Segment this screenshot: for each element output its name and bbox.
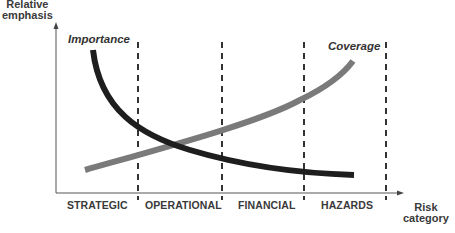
importance-label: Importance: [68, 33, 130, 45]
category-financial: FINANCIAL: [238, 199, 295, 211]
category-strategic: STRATEGIC: [67, 199, 128, 211]
x-axis: [56, 191, 404, 196]
y-axis: [54, 22, 59, 193]
category-operational: OPERATIONAL: [145, 199, 222, 211]
y-axis-label-line2: emphasis: [2, 10, 53, 21]
category-hazards: HAZARDS: [321, 199, 373, 211]
y-axis-label: Relative emphasis: [2, 0, 53, 21]
x-axis-label: Risk category: [403, 202, 449, 224]
coverage-label: Coverage: [328, 40, 380, 52]
x-axis-label-line2: category: [403, 213, 449, 224]
